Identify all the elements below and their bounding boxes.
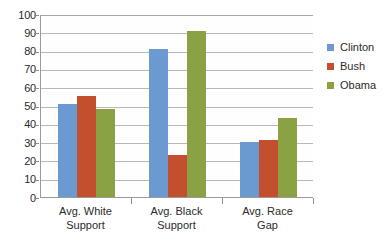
- x-axis-tick-mark: [313, 198, 314, 204]
- y-axis-tick-label: 30: [4, 138, 36, 149]
- bar-clinton[interactable]: [240, 142, 259, 197]
- bar-group-avg-race-gap: [223, 15, 314, 197]
- bar-obama[interactable]: [278, 118, 297, 197]
- y-axis-tick-mark: [34, 198, 39, 199]
- bar-bush[interactable]: [77, 96, 96, 197]
- legend-item-clinton[interactable]: Clinton: [327, 38, 376, 57]
- y-axis-tick-label: 80: [4, 46, 36, 57]
- bar-obama[interactable]: [187, 31, 206, 198]
- y-axis-tick-label: 60: [4, 83, 36, 94]
- y-axis-tick-label: 10: [4, 174, 36, 185]
- legend-item-label: Clinton: [340, 42, 374, 53]
- bar-group-avg-white-support: [41, 15, 132, 197]
- bar-obama[interactable]: [96, 109, 115, 197]
- y-axis-tick-label: 0: [4, 193, 36, 204]
- legend-item-obama[interactable]: Obama: [327, 76, 376, 95]
- y-axis-tick-mark: [34, 125, 39, 126]
- legend-item-label: Bush: [340, 61, 365, 72]
- legend-swatch-icon: [327, 44, 334, 51]
- y-axis-tick-label: 40: [4, 119, 36, 130]
- legend-item-bush[interactable]: Bush: [327, 57, 376, 76]
- x-axis-category-label-avg-race-gap: Avg. Race Gap: [213, 205, 323, 232]
- bar-bush[interactable]: [259, 140, 278, 197]
- y-axis-tick-mark: [34, 33, 39, 34]
- y-axis-tick-mark: [34, 143, 39, 144]
- y-axis-tick-mark: [34, 52, 39, 53]
- legend-swatch-icon: [327, 63, 334, 70]
- x-axis-tick-mark: [222, 198, 223, 204]
- category-label-line: Gap: [213, 219, 323, 233]
- bar-clinton[interactable]: [149, 49, 168, 197]
- y-axis-tick-label: 100: [4, 10, 36, 21]
- y-axis-tick-mark: [34, 15, 39, 16]
- y-axis-tick-mark: [34, 70, 39, 71]
- plot-area: [40, 15, 313, 198]
- y-axis-tick-mark: [34, 161, 39, 162]
- bar-clinton[interactable]: [58, 104, 77, 197]
- category-label-line: Avg. Race: [213, 205, 323, 219]
- y-axis-tick-mark: [34, 88, 39, 89]
- y-axis-tick-label: 70: [4, 64, 36, 75]
- x-axis-tick-mark: [131, 198, 132, 204]
- y-axis-tick-label: 90: [4, 28, 36, 39]
- y-axis-tick-label: 50: [4, 101, 36, 112]
- legend-swatch-icon: [327, 82, 334, 89]
- bar-group-avg-black-support: [132, 15, 223, 197]
- bar-chart: 100 90 80 70 60 50 40 30 20 10 0: [0, 0, 385, 241]
- y-axis-tick-label: 20: [4, 156, 36, 167]
- legend: Clinton Bush Obama: [327, 38, 376, 95]
- bar-bush[interactable]: [168, 155, 187, 197]
- legend-item-label: Obama: [340, 80, 376, 91]
- y-axis-tick-mark: [34, 107, 39, 108]
- y-axis-tick-mark: [34, 180, 39, 181]
